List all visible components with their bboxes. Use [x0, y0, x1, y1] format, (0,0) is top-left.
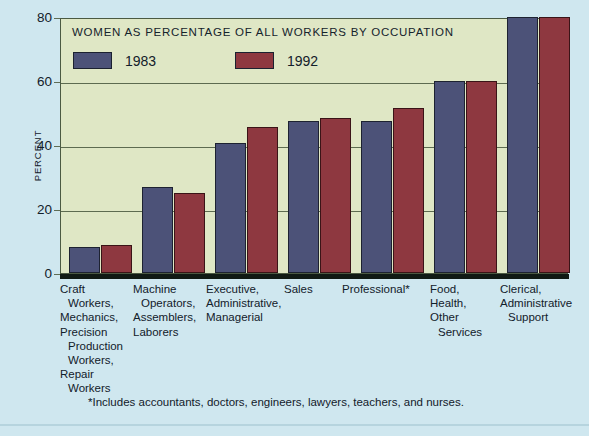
y-tick-label-80: 80 [6, 11, 52, 25]
bar-1992-group-4 [320, 118, 351, 273]
x-axis-label-6: Food,Health,OtherServices [430, 282, 482, 339]
x-label-line: Mechanics, [60, 310, 123, 324]
x-label-line: Support [500, 310, 572, 324]
bar-1983-group-6 [434, 81, 465, 273]
x-label-line: Services [430, 325, 482, 339]
x-axis-baseline [60, 274, 569, 279]
bar-1983-group-2 [142, 187, 173, 273]
x-label-line: Workers, [60, 353, 123, 367]
y-tick-label-40: 40 [6, 139, 52, 153]
x-axis-label-7: Clerical,AdministrativeSupport [500, 282, 572, 325]
x-axis-label-2: MachineOperators,Assemblers,Laborers [133, 282, 196, 339]
bar-1992-group-5 [393, 108, 424, 273]
bar-1992-group-6 [466, 81, 497, 273]
x-label-line: Precision [60, 325, 123, 339]
x-axis-label-3: Executive,Administrative,Managerial [206, 282, 281, 325]
x-label-line: Managerial [206, 310, 281, 324]
chart-footnote: *Includes accountants, doctors, engineer… [88, 396, 464, 408]
x-label-line: Production [60, 339, 123, 353]
y-tick-label-60: 60 [6, 75, 52, 89]
x-label-line: Executive, [206, 282, 281, 296]
x-label-line: Other [430, 310, 482, 324]
x-label-line: Administrative, [206, 296, 281, 310]
y-tick-label-0: 0 [6, 267, 52, 281]
x-label-line: Machine [133, 282, 196, 296]
bottom-divider [0, 424, 589, 426]
chart-figure: PERCENT 806040200 WOMEN AS PERCENTAGE OF… [0, 0, 589, 436]
x-axis-label-1: CraftWorkers,Mechanics,PrecisionProducti… [60, 282, 123, 396]
plot-area: WOMEN AS PERCENTAGE OF ALL WORKERS BY OC… [60, 18, 568, 274]
x-label-line: Assemblers, [133, 310, 196, 324]
bar-1983-group-7 [507, 17, 538, 273]
x-label-line: Administrative [500, 296, 572, 310]
x-label-line: Professional* [342, 282, 410, 296]
bar-1992-group-7 [539, 17, 570, 273]
y-axis-ticks: 806040200 [0, 0, 52, 300]
bar-1983-group-5 [361, 121, 392, 273]
x-label-line: Health, [430, 296, 482, 310]
y-tick-label-20: 20 [6, 203, 52, 217]
bar-1983-group-4 [288, 121, 319, 273]
bar-1992-group-3 [247, 127, 278, 273]
bar-1992-group-2 [174, 193, 205, 273]
bar-group-container [61, 19, 567, 273]
x-label-line: Workers, [60, 296, 123, 310]
bar-1992-group-1 [101, 245, 132, 273]
x-label-line: Sales [284, 282, 313, 296]
x-label-line: Clerical, [500, 282, 572, 296]
bar-1983-group-3 [215, 143, 246, 273]
x-label-line: Workers [60, 381, 123, 395]
x-label-line: Repair [60, 367, 123, 381]
x-label-line: Craft [60, 282, 123, 296]
x-label-line: Food, [430, 282, 482, 296]
x-label-line: Laborers [133, 325, 196, 339]
x-axis-label-5: Professional* [342, 282, 410, 296]
x-label-line: Operators, [133, 296, 196, 310]
bar-1983-group-1 [69, 247, 100, 273]
x-axis-labels: CraftWorkers,Mechanics,PrecisionProducti… [60, 282, 569, 392]
x-axis-label-4: Sales [284, 282, 313, 296]
